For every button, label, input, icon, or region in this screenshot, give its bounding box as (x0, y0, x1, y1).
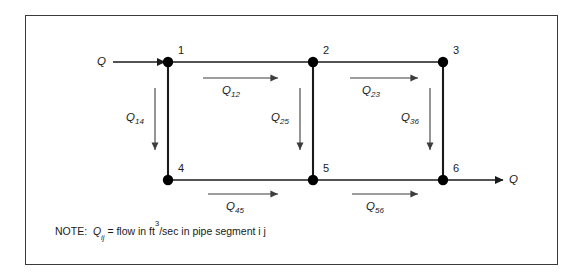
note-tail-text: /sec in pipe segment i j (159, 225, 266, 237)
flow-label-Q14: Q14 (126, 112, 144, 124)
flow-symbol-Q12: Q (222, 84, 231, 96)
flow-subscript-Q36: 36 (410, 117, 419, 126)
node-3 (438, 57, 448, 67)
flow-label-Q12: Q12 (222, 85, 240, 97)
node-label-1: 1 (178, 45, 184, 56)
flow-subscript-Q23: 23 (371, 90, 380, 99)
node-label-4: 4 (178, 163, 184, 174)
flow-symbol-Q23: Q (362, 84, 371, 96)
node-2 (308, 57, 318, 67)
flow-subscript-Q12: 12 (231, 90, 240, 99)
flow-symbol-Q45: Q (226, 200, 235, 212)
flow-symbol-Q56: Q (366, 200, 375, 212)
flow-symbol-Q25: Q (271, 111, 280, 123)
node-6 (438, 175, 448, 185)
figure-canvas: Q Q 1 2 3 4 5 6 Q12 Q23 Q14 Q25 Q36 Q45 … (0, 0, 582, 278)
flow-label-Q25: Q25 (271, 112, 289, 124)
note-symbol: Qij (93, 225, 105, 237)
note-exponent: 3 (155, 219, 159, 228)
figure-note: NOTE: Qij = flow in ft3/sec in pipe segm… (55, 224, 266, 239)
flow-subscript-Q25: 25 (280, 117, 289, 126)
note-heading: NOTE: (55, 225, 87, 237)
flow-label-Q36: Q36 (401, 112, 419, 124)
flow-subscript-Q14: 14 (135, 117, 144, 126)
note-symbol-sub: ij (101, 233, 104, 242)
node-1 (163, 57, 173, 67)
flow-symbol-Q14: Q (126, 111, 135, 123)
flow-subscript-Q45: 45 (235, 206, 244, 215)
flow-label-Q23: Q23 (362, 85, 380, 97)
note-symbol-q: Q (93, 225, 101, 237)
flow-subscript-Q56: 56 (375, 206, 384, 215)
node-label-6: 6 (453, 163, 459, 174)
node-4 (163, 175, 173, 185)
note-equals-text: = flow in ft (107, 225, 155, 237)
node-label-5: 5 (323, 163, 329, 174)
flow-direction-arrows (155, 78, 430, 194)
node-label-3: 3 (453, 45, 459, 56)
flow-symbol-Q36: Q (401, 111, 410, 123)
inlet-flow-label: Q (97, 56, 106, 68)
flow-label-Q45: Q45 (226, 201, 244, 213)
node-label-2: 2 (323, 45, 329, 56)
outlet-flow-label: Q (509, 174, 518, 186)
flow-label-Q56: Q56 (366, 201, 384, 213)
node-5 (308, 175, 318, 185)
